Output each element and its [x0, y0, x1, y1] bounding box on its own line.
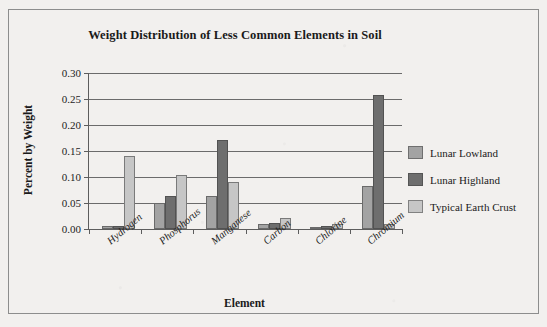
bar[interactable] — [102, 226, 113, 229]
y-axis-tick-label: 0.10 — [62, 171, 81, 183]
legend-item-lunar-lowland[interactable]: Lunar Lowland — [408, 146, 516, 159]
x-axis-tick — [298, 229, 299, 234]
x-axis-title: Element — [88, 297, 401, 309]
y-axis-tick-label: 0.05 — [62, 197, 81, 209]
y-axis-tick-label: 0.00 — [62, 223, 81, 235]
bar-group — [350, 73, 402, 229]
x-axis-tick — [246, 229, 247, 234]
legend-item-lunar-highland[interactable]: Lunar Highland — [408, 173, 516, 186]
y-axis-title: Percent by Weight — [22, 105, 34, 195]
chart-title: Weight Distribution of Less Common Eleme… — [0, 28, 470, 43]
x-axis-tick — [193, 229, 194, 234]
bar[interactable] — [154, 203, 165, 229]
bar-group — [141, 73, 193, 229]
y-axis-tick-label: 0.30 — [62, 67, 81, 79]
bar[interactable] — [206, 196, 217, 229]
legend-swatch-icon — [408, 200, 423, 213]
legend-label: Typical Earth Crust — [430, 201, 516, 213]
legend-swatch-icon — [408, 146, 423, 159]
x-axis-tick — [350, 229, 351, 234]
bar-group — [89, 73, 141, 229]
y-axis-tick-label: 0.20 — [62, 119, 81, 131]
legend-label: Lunar Highland — [430, 174, 500, 186]
bar[interactable] — [310, 227, 321, 229]
x-axis-tick — [89, 229, 90, 234]
x-axis-tick — [141, 229, 142, 234]
bar-group — [298, 73, 350, 229]
x-axis-tick — [402, 229, 403, 234]
y-axis-tick-label: 0.15 — [62, 145, 81, 157]
chart-legend: Lunar Lowland Lunar Highland Typical Ear… — [408, 146, 516, 227]
legend-swatch-icon — [408, 173, 423, 186]
bar[interactable] — [373, 95, 384, 229]
bar-group — [246, 73, 298, 229]
bar[interactable] — [362, 186, 373, 229]
legend-label: Lunar Lowland — [430, 147, 498, 159]
bar[interactable] — [217, 140, 228, 229]
legend-item-typical-earth-crust[interactable]: Typical Earth Crust — [408, 200, 516, 213]
bar[interactable] — [258, 224, 269, 229]
plot-area: 0.000.050.100.150.200.250.30HydrogenPhos… — [88, 73, 402, 230]
y-axis-tick-label: 0.25 — [62, 93, 81, 105]
bar-group — [193, 73, 245, 229]
